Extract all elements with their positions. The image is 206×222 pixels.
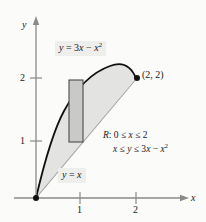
region-line2-mid: ≤ <box>117 144 127 154</box>
region-description-line1: R: 0 ≤ x ≤ 2 <box>103 131 147 141</box>
region-line1-pre: 0 ≤ <box>114 130 129 140</box>
y-tick-label-2: 2 <box>20 73 25 83</box>
x-axis-arrow-icon <box>180 195 189 201</box>
curve-eq-minus: − <box>84 42 95 53</box>
x-axis-label: x <box>191 193 195 203</box>
curve-equation-label: y = 3x − x2 <box>55 41 106 56</box>
region-line2-minus: − <box>150 144 160 154</box>
x-tick-label-2: 2 <box>133 205 138 215</box>
endpoint-point-2-2 <box>134 75 140 81</box>
curve-eq-exponent: 2 <box>99 41 102 48</box>
representative-rectangle <box>69 80 83 142</box>
y-axis-arrow-icon <box>33 16 39 25</box>
origin-point <box>33 195 39 201</box>
region-line1-post: ≤ 2 <box>133 130 148 140</box>
line-equation-label: y = x <box>58 168 86 183</box>
point-label-2-2: (2, 2) <box>142 70 164 80</box>
region-line2-exponent: 2 <box>165 142 168 149</box>
x-tick-label-1: 1 <box>77 205 82 215</box>
region-line2-mid2: ≤ 3 <box>131 144 146 154</box>
region-description-line2: x ≤ y ≤ 3x − x2 <box>113 145 168 155</box>
graph-figure <box>0 0 206 222</box>
y-tick-label-1: 1 <box>20 136 25 146</box>
y-axis-label: y <box>22 20 26 30</box>
curve-eq-operator: = 3 <box>63 42 79 53</box>
line-eq-rhs: x <box>77 169 81 180</box>
line-eq-operator: = <box>66 169 77 180</box>
